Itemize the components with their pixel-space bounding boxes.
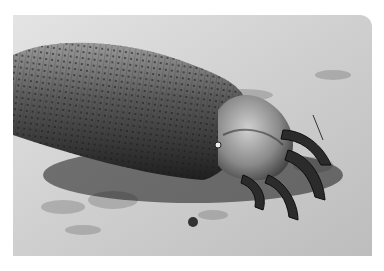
sem-photo (13, 15, 372, 256)
debris-particle (188, 217, 198, 227)
mite-illustration (13, 15, 372, 256)
mite-eye (215, 142, 221, 148)
